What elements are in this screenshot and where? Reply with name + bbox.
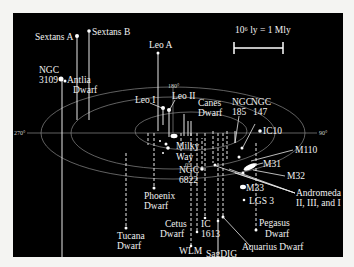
- galaxy-phoenix-dwarf: Phoenix Dwarf: [144, 133, 175, 211]
- label-m32: M32: [287, 171, 305, 181]
- galaxy-lgs3: LGS 3: [243, 196, 275, 206]
- local-group-diagram: 270° 90° 180° 0° 10⁶ ly = 1 Mly Sextans …: [13, 13, 343, 257]
- label-andromeda-line1: Andromeda: [296, 188, 342, 198]
- label-andromeda-line2: II, III, and I: [296, 198, 341, 208]
- label-ngc6822-line2: 6822: [179, 175, 198, 185]
- galaxy-leo-i: Leo I: [135, 95, 165, 125]
- label-m110: M110: [295, 145, 318, 155]
- label-sextans-b: Sextans B: [92, 27, 130, 37]
- label-ngc3109-line2: 3109: [39, 75, 58, 85]
- label-ngc3109-line1: NGC: [39, 65, 59, 75]
- scale-bar-label: 10⁶ ly = 1 Mly: [235, 25, 291, 35]
- label-cetus-line1: Cetus: [165, 219, 187, 229]
- galaxy-tucana-dwarf: Tucana Dwarf: [117, 153, 145, 251]
- galaxy-andromeda-dwarfs: Andromeda II, III, and I: [214, 164, 342, 209]
- galaxy-m31: M31: [243, 159, 282, 172]
- label-ngc6822-line1: NGC: [179, 165, 199, 175]
- galaxy-aquarius-sagdig: Aquarius Dwarf SagDIG: [206, 133, 304, 257]
- label-sextans-a: Sextans A: [35, 32, 73, 42]
- tick-90: 90°: [319, 130, 328, 136]
- label-pegasus-line1: Pegasus: [259, 218, 290, 228]
- label-ic1613-line2: 1613: [201, 229, 220, 239]
- label-leo-a: Leo A: [149, 40, 173, 50]
- label-antlia-line1: Antlia: [67, 75, 92, 85]
- label-phoenix-line1: Phoenix: [144, 191, 175, 201]
- label-ngc147-line1: NGC: [251, 97, 271, 107]
- label-pegasus-line2: Dwarf: [265, 229, 290, 239]
- label-aquarius: Aquarius Dwarf: [242, 242, 304, 252]
- label-ngc147-line2: 147: [253, 107, 268, 117]
- tick-180: 180°: [168, 83, 180, 89]
- label-ngc185-line2: 185: [232, 107, 247, 117]
- label-cetus-line2: Dwarf: [160, 229, 185, 239]
- label-ngc185-line1: NGC: [232, 97, 252, 107]
- galaxy-ic10: IC10: [258, 126, 282, 136]
- label-tucana-line1: Tucana: [117, 231, 145, 241]
- label-ic10: IC10: [263, 126, 282, 136]
- galaxy-m32: M32: [242, 170, 306, 181]
- label-lgs3: LGS 3: [249, 196, 274, 206]
- galaxy-sextans-b: Sextans B: [87, 27, 130, 120]
- label-tucana-line2: Dwarf: [117, 241, 142, 251]
- label-sagdig: SagDIG: [206, 249, 237, 257]
- label-canes-line2: Dwarf: [198, 108, 223, 118]
- label-leo-i: Leo I: [135, 95, 155, 105]
- label-antlia-line2: Dwarf: [73, 85, 98, 95]
- galaxy-m33: M33: [240, 183, 264, 193]
- label-ic1613-line1: IC: [201, 219, 211, 229]
- galaxy-canes-dwarf: Canes Dwarf: [184, 98, 223, 136]
- label-milky-way-line1: Milky: [176, 141, 199, 151]
- tick-270: 270°: [14, 130, 26, 136]
- label-phoenix-line2: Dwarf: [144, 201, 169, 211]
- scale-bar: 10⁶ ly = 1 Mly: [234, 25, 291, 54]
- label-canes-line1: Canes: [198, 98, 222, 108]
- label-leo-ii: Leo II: [172, 91, 195, 101]
- diagram-canvas: 270° 90° 180° 0° 10⁶ ly = 1 Mly Sextans …: [13, 13, 343, 257]
- label-wlm: WLM: [179, 246, 203, 256]
- label-m31: M31: [263, 159, 281, 169]
- label-m33: M33: [246, 183, 264, 193]
